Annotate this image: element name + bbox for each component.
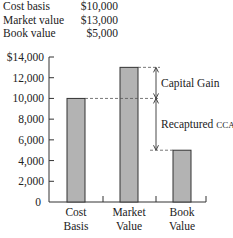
y-tick-label: $14,000 [7, 51, 45, 64]
bar-market-value [120, 67, 138, 202]
x-category-label: Value [169, 220, 195, 232]
y-tick-label: 12,000 [12, 72, 44, 85]
bar-chart: 02,0004,0006,0008,00010,00012,000$14,000… [0, 0, 233, 238]
x-category-label: Market [112, 206, 146, 218]
bar-cost-basis [67, 98, 85, 202]
y-tick-label: 0 [35, 196, 41, 208]
capital-gain-label: Capital Gain [161, 77, 220, 90]
x-category-label: Value [116, 220, 142, 232]
x-category-label: Cost [65, 206, 87, 218]
x-category-label: Basis [64, 220, 89, 232]
y-tick-label: 4,000 [18, 155, 44, 168]
y-tick-label: 8,000 [18, 113, 44, 126]
x-category-label: Book [170, 206, 195, 218]
y-tick-label: 6,000 [18, 134, 44, 147]
y-tick-label: 2,000 [18, 175, 44, 188]
bar-book-value [173, 150, 191, 202]
y-tick-label: 10,000 [12, 92, 44, 105]
recaptured-cca-label: Recaptured CCA [161, 118, 233, 131]
